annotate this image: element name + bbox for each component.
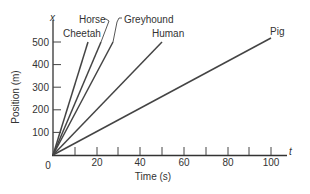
line-pig xyxy=(53,38,271,155)
x-axis-symbol: t xyxy=(289,146,293,157)
svg-text:80: 80 xyxy=(222,157,234,168)
svg-text:40: 40 xyxy=(134,157,146,168)
svg-text:500: 500 xyxy=(32,37,49,48)
line-human xyxy=(53,42,162,155)
y-axis-symbol: x xyxy=(49,12,56,23)
y-ticks xyxy=(53,42,61,132)
svg-text:0: 0 xyxy=(45,160,51,171)
label-pig: Pig xyxy=(270,26,284,37)
svg-text:200: 200 xyxy=(32,104,49,115)
x-tick-labels: 0 20 40 60 80 100 xyxy=(45,157,280,171)
svg-text:400: 400 xyxy=(32,59,49,70)
series-labels: Cheetah Horse Greyhound Human Pig xyxy=(63,14,284,39)
position-time-chart: 500 400 300 200 100 0 20 40 60 80 100 x … xyxy=(0,0,310,194)
line-horse xyxy=(53,42,101,155)
svg-text:20: 20 xyxy=(91,157,103,168)
label-cheetah: Cheetah xyxy=(63,28,101,39)
svg-text:100: 100 xyxy=(32,127,49,138)
svg-text:300: 300 xyxy=(32,82,49,93)
y-tick-labels: 500 400 300 200 100 xyxy=(32,37,49,139)
label-human: Human xyxy=(152,28,184,39)
x-axis-title: Time (s) xyxy=(135,171,171,182)
svg-text:60: 60 xyxy=(178,157,190,168)
svg-text:100: 100 xyxy=(263,157,280,168)
x-ticks xyxy=(75,147,271,155)
y-axis-title: Position (m) xyxy=(10,70,21,123)
label-greyhound: Greyhound xyxy=(124,14,173,25)
series-lines xyxy=(53,38,271,155)
label-horse: Horse xyxy=(79,14,106,25)
